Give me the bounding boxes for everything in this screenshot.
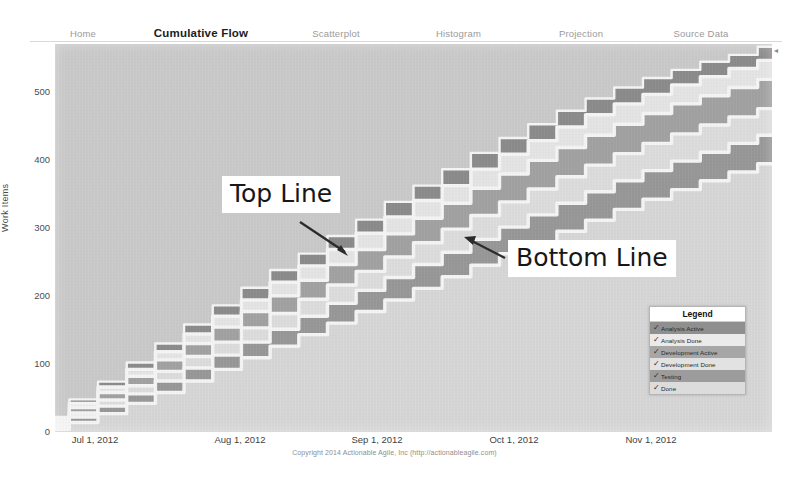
legend-title: Legend <box>650 307 745 322</box>
legend-check-icon[interactable]: ✓ <box>653 348 661 356</box>
y-axis-title: Work Items <box>0 184 10 232</box>
annotation-bottom-line: Bottom Line <box>508 240 676 277</box>
tab-bar-divider <box>30 41 782 42</box>
tab-scroll-right-icon[interactable]: ◂ <box>774 47 778 55</box>
y-axis-tick: 200 <box>10 290 50 301</box>
legend-rows: ✓Analysis Active✓Analysis Done✓Developme… <box>650 322 745 394</box>
y-axis-tick: 400 <box>10 154 50 165</box>
tab-projection[interactable]: Projection <box>521 28 641 42</box>
tab-source-data[interactable]: Source Data <box>641 28 761 42</box>
legend-item-testing[interactable]: ✓Testing <box>650 370 745 382</box>
legend-item-label: Development Active <box>661 349 745 356</box>
legend-box[interactable]: Legend ✓Analysis Active✓Analysis Done✓De… <box>649 306 746 395</box>
legend-item-analysis-active[interactable]: ✓Analysis Active <box>650 322 745 334</box>
legend-item-label: Done <box>661 385 745 392</box>
tab-bar: Home Cumulative Flow Scatterplot Histogr… <box>40 20 780 42</box>
legend-check-icon[interactable]: ✓ <box>653 384 661 392</box>
cumulative-flow-diagram-screen: Home Cumulative Flow Scatterplot Histogr… <box>0 0 789 478</box>
copyright-notice: Copyright 2014 Actionable Agile, Inc (ht… <box>0 449 789 456</box>
legend-check-icon[interactable]: ✓ <box>653 324 661 332</box>
legend-item-label: Analysis Active <box>661 325 745 332</box>
legend-check-icon[interactable]: ✓ <box>653 372 661 380</box>
x-axis-tick: Aug 1, 2012 <box>214 434 265 445</box>
x-axis-tick: Jul 1, 2012 <box>72 434 118 445</box>
annotation-top-line: Top Line <box>222 176 340 213</box>
x-axis-tick: Sep 1, 2012 <box>351 434 402 445</box>
legend-check-icon[interactable]: ✓ <box>653 336 661 344</box>
y-axis-tick: 100 <box>10 358 50 369</box>
x-axis-tick: Oct 1, 2012 <box>489 434 538 445</box>
legend-check-icon[interactable]: ✓ <box>653 360 661 368</box>
legend-item-label: Development Done <box>661 361 745 368</box>
y-axis: Work Items 0100200300400500 <box>6 0 50 478</box>
legend-item-development-active[interactable]: ✓Development Active <box>650 346 745 358</box>
legend-item-analysis-done[interactable]: ✓Analysis Done <box>650 334 745 346</box>
y-axis-tick: 300 <box>10 222 50 233</box>
legend-item-development-done[interactable]: ✓Development Done <box>650 358 745 370</box>
legend-item-done[interactable]: ✓Done <box>650 382 745 394</box>
x-axis: Jul 1, 2012Aug 1, 2012Sep 1, 2012Oct 1, … <box>0 434 789 450</box>
tab-scatterplot[interactable]: Scatterplot <box>276 28 396 42</box>
tab-histogram[interactable]: Histogram <box>396 28 521 42</box>
tab-home[interactable]: Home <box>40 28 126 42</box>
legend-item-label: Analysis Done <box>661 337 745 344</box>
tab-cumulative-flow[interactable]: Cumulative Flow <box>126 27 276 42</box>
x-axis-tick: Nov 1, 2012 <box>625 434 676 445</box>
legend-item-label: Testing <box>661 373 745 380</box>
y-axis-tick: 500 <box>10 86 50 97</box>
